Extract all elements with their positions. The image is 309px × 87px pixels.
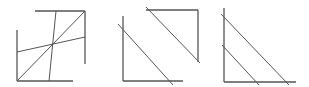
diagram-canvas — [0, 0, 309, 87]
diagram-svg — [0, 0, 309, 87]
background — [0, 0, 309, 87]
